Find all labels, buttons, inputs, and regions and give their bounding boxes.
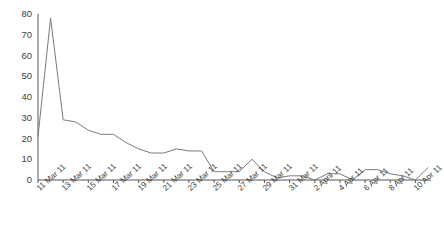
- y-axis-tick-label: 60: [10, 51, 32, 61]
- y-axis-tick-label: 30: [10, 113, 32, 123]
- y-axis-tick-label: 20: [10, 134, 32, 144]
- y-axis-tick-label: 40: [10, 92, 32, 102]
- y-axis-tick-label: 0: [10, 175, 32, 185]
- y-axis-tick-label: 50: [10, 71, 32, 81]
- y-axis-tick-label: 10: [10, 154, 32, 164]
- y-axis-tick-label: 80: [10, 9, 32, 19]
- axes-group: [38, 14, 428, 180]
- data-series-line: [38, 18, 428, 180]
- y-axis-tick-label: 70: [10, 30, 32, 40]
